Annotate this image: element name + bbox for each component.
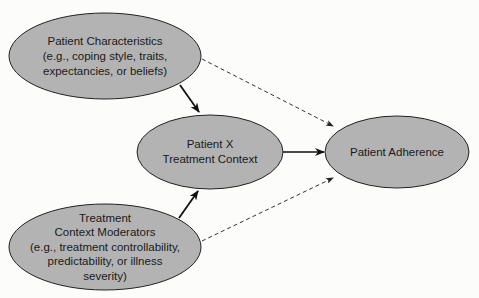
- label-line: predictability, or illness: [48, 254, 163, 269]
- label-treatment-context-moderators: Treatment Context Moderators (e.g., trea…: [9, 205, 201, 289]
- label-line: expectancies, or beliefs): [43, 64, 167, 79]
- label-line: Patient X: [187, 137, 234, 152]
- label-line: severity): [83, 269, 126, 284]
- label-patient-x-treatment-context: Patient X Treatment Context: [137, 115, 283, 189]
- label-line: (e.g., treatment controllability,: [30, 240, 180, 255]
- label-line: Context Moderators: [55, 225, 156, 240]
- label-line: Treatment Context: [163, 152, 258, 167]
- diagram-canvas: Patient Characteristics (e.g., coping st…: [0, 0, 479, 298]
- label-line: Patient Characteristics: [47, 34, 162, 49]
- label-line: Patient Adherence: [350, 145, 444, 160]
- label-line: (e.g., coping style, traits,: [43, 49, 168, 64]
- label-line: Treatment: [79, 211, 131, 226]
- label-patient-adherence: Patient Adherence: [325, 116, 469, 188]
- label-patient-characteristics: Patient Characteristics (e.g., coping st…: [9, 14, 201, 98]
